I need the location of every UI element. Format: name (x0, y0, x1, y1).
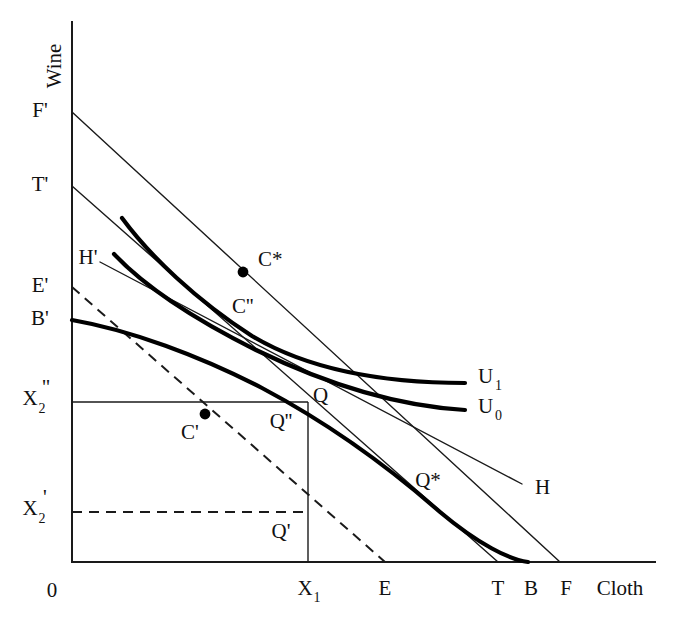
point-c-prime-dot (200, 409, 211, 420)
point-labels-group: C* C'' C' Q Q'' Q' Q* (181, 247, 441, 543)
label-h: H (535, 475, 550, 499)
point-c-star-dot (238, 267, 249, 278)
y-label-tprime: T' (32, 172, 49, 196)
label-q-double-prime: Q'' (270, 409, 293, 433)
indifference-curves-group (114, 218, 465, 410)
label-c-double-prime: C'' (232, 294, 254, 318)
curve-ppf-Bprime-B (72, 320, 528, 562)
y-label-eprime: E' (32, 273, 49, 297)
label-q-prime: Q' (272, 519, 291, 543)
x-label-x1-base: X (297, 576, 312, 600)
x-label-e: E (379, 576, 392, 600)
y-axis-title: Wine (42, 44, 66, 89)
y-label-bprime: B' (31, 306, 49, 330)
x-label-x1: X 1 (297, 576, 320, 605)
x-label-b: B (524, 576, 538, 600)
y-label-x2dd-prime: " (42, 375, 51, 399)
y-label-x2d-prime: ' (43, 485, 47, 509)
y-axis-labels-group: F' T' E' B' X 2 " X 2 ' (22, 98, 50, 526)
label-u1: U 1 (478, 364, 502, 393)
label-c-star: C* (258, 247, 283, 271)
y-label-x2d-base: X (22, 496, 37, 520)
y-label-x2-prime: X 2 ' (22, 485, 46, 526)
y-label-fprime: F' (32, 98, 47, 122)
x-label-t: T (492, 576, 505, 600)
label-u0-subscript: 0 (495, 408, 502, 423)
y-label-x2dd-base: X (22, 386, 37, 410)
label-u0-base: U (478, 394, 493, 418)
curve-U0 (114, 254, 465, 410)
y-label-x2d-subscript: 2 (39, 511, 46, 526)
label-u1-subscript: 1 (495, 378, 502, 393)
label-h-prime: H' (79, 245, 98, 269)
label-q-star: Q* (415, 468, 441, 492)
figure-root: F' T' E' B' X 2 " X 2 ' 0 X 1 E T (0, 0, 679, 632)
origin-label: 0 (47, 578, 58, 602)
line-Eprime-E (72, 287, 385, 562)
axis-titles-group: Wine Cloth (42, 44, 644, 600)
trade-diagram: F' T' E' B' X 2 " X 2 ' 0 X 1 E T (0, 0, 679, 632)
label-u0: U 0 (478, 394, 502, 423)
x-axis-title: Cloth (597, 576, 644, 600)
y-label-x2dd-subscript: 2 (39, 401, 46, 416)
x-label-x1-subscript: 1 (314, 590, 321, 605)
label-q: Q (313, 383, 328, 407)
x-label-f: F (560, 576, 572, 600)
label-c-prime: C' (181, 420, 199, 444)
y-label-x2-double-prime: X 2 " (22, 375, 50, 416)
label-u1-base: U (478, 364, 493, 388)
x-axis-labels-group: 0 X 1 E T B F (47, 576, 572, 605)
ppf-group (72, 320, 528, 562)
